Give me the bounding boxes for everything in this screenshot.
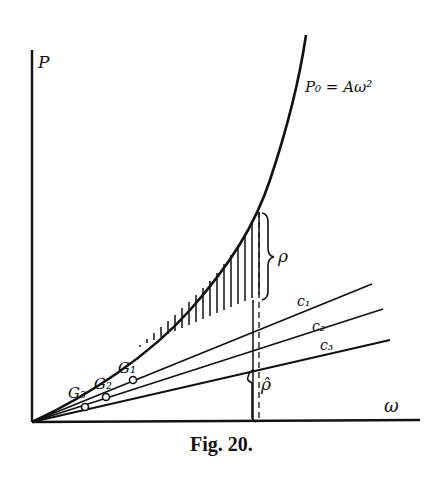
figure-caption: Fig. 20.	[190, 433, 253, 456]
curve-label: P₀ = Aω²	[304, 78, 372, 96]
point-g2-label: G₂	[94, 375, 112, 393]
lower-brace-label: ρ̂	[260, 374, 271, 394]
point-g1	[130, 377, 137, 384]
line-c1-label: c₁	[297, 293, 310, 309]
point-g3-label: G₃	[68, 384, 86, 402]
point-g3	[82, 404, 89, 411]
line-c2-label: c₂	[312, 318, 326, 334]
x-axis-label: ω	[384, 395, 399, 416]
point-g1-label: G₁	[118, 359, 136, 377]
point-g2	[103, 394, 110, 401]
upper-brace	[262, 213, 274, 300]
lower-brace	[248, 370, 257, 422]
hatched-region	[140, 212, 259, 347]
line-c3-label: c₃	[320, 337, 334, 353]
upper-brace-label: ρ	[277, 246, 288, 266]
figure-20: P ω P₀ = Aω² c₁ c₂ c₃ G₁ G₂ G₃ ρ	[0, 0, 432, 477]
x-axis	[32, 420, 420, 422]
parabola-curve	[32, 35, 306, 422]
y-axis-label: P	[37, 52, 50, 72]
